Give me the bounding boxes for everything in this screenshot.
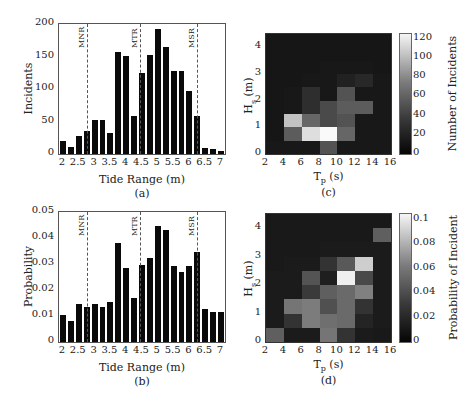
heatmap-cell [302, 228, 320, 243]
y-tick: 4 [227, 220, 261, 231]
y-axis-label-d: Hs (m) [242, 254, 257, 304]
heatmap-cell [266, 242, 284, 257]
caption-d: (d) [265, 374, 392, 387]
colorbar-probability [399, 213, 412, 343]
panel-d: 01234 246810121416 00.020.040.060.080.1 … [0, 0, 473, 405]
heatmap-cell [302, 214, 320, 229]
heatmap-cell [355, 242, 373, 257]
y-label-main-d: H [242, 287, 255, 297]
heatmap-cell [284, 214, 302, 229]
x-label-unit-d: (s) [326, 358, 344, 371]
heatmap-cell [337, 228, 355, 243]
heatmap-cell [320, 256, 338, 271]
heatmap-cell [337, 242, 355, 257]
heatmap-cell [302, 285, 320, 300]
colorbar-tick: 0.08 [413, 236, 435, 247]
heatmap-cell [284, 313, 302, 328]
heatmap-cell [302, 270, 320, 285]
heatmap-cell [266, 270, 284, 285]
heatmap-cell [355, 313, 373, 328]
heatmap-cell [337, 214, 355, 229]
colorbar-tick: 0.04 [413, 285, 435, 296]
x-tick: 16 [380, 344, 400, 355]
heatmap-cell [337, 285, 355, 300]
heatmap-cell [284, 242, 302, 257]
heatmap-cell [337, 270, 355, 285]
heatmap-cell [266, 313, 284, 328]
heatmap-cell [355, 327, 373, 342]
y-tick: 1 [227, 306, 261, 317]
heatmap-cell [320, 285, 338, 300]
heatmap-cell [355, 228, 373, 243]
heatmap-cell [373, 299, 391, 314]
heatmap-cell [320, 214, 338, 229]
colorbar-tick: 0 [413, 334, 419, 345]
heatmap-cell [266, 256, 284, 271]
heatmap-cell [337, 299, 355, 314]
colorbar-tick: 0.06 [413, 261, 435, 272]
colorbar-label-d: Probability of Incident [447, 213, 460, 343]
y-label-unit-d: (m) [242, 260, 255, 283]
y-label-sub-d: s [249, 283, 258, 287]
heatmap-cell [320, 299, 338, 314]
colorbar-tick: 0.1 [413, 212, 429, 223]
heatmap-cell [373, 285, 391, 300]
heatmap-cell [266, 285, 284, 300]
heatmap-cell [284, 228, 302, 243]
heatmap-cell [320, 327, 338, 342]
heatmap-cell [373, 228, 391, 243]
colorbar-tick: 0.02 [413, 310, 435, 321]
heatmap-cell [337, 327, 355, 342]
heatmap-cell [355, 214, 373, 229]
heatmap-cell [284, 256, 302, 271]
heatmap-cell [337, 256, 355, 271]
heatmap-cell [284, 285, 302, 300]
heatmap-cell [302, 299, 320, 314]
x-axis-label-d: Tp (s) [265, 358, 392, 373]
heatmap-cell [373, 256, 391, 271]
heatmap-cell [320, 228, 338, 243]
heatmap-cell [302, 327, 320, 342]
heatmap-cell [284, 299, 302, 314]
heatmap-cell [355, 285, 373, 300]
heatmap-cell [320, 313, 338, 328]
heatmap-cell [320, 242, 338, 257]
heatmap-cell [373, 313, 391, 328]
heatmap-cell [373, 327, 391, 342]
heatmap-cell [373, 242, 391, 257]
heatmap-cell [266, 299, 284, 314]
heatmap-cell [266, 327, 284, 342]
heatmap-cell [373, 214, 391, 229]
heatmap-cell [302, 313, 320, 328]
heatmap-cell [355, 256, 373, 271]
x-label-main-d: T [313, 358, 320, 371]
heatmap-probability [265, 213, 392, 343]
heatmap-cell [337, 313, 355, 328]
heatmap-cell [284, 270, 302, 285]
heatmap-cell [373, 270, 391, 285]
heatmap-cell [266, 228, 284, 243]
heatmap-cell [266, 214, 284, 229]
heatmap-cell [355, 270, 373, 285]
heatmap-cell [320, 270, 338, 285]
heatmap-cell [284, 327, 302, 342]
heatmap-cell [302, 256, 320, 271]
heatmap-cell [302, 242, 320, 257]
heatmap-cell [355, 299, 373, 314]
